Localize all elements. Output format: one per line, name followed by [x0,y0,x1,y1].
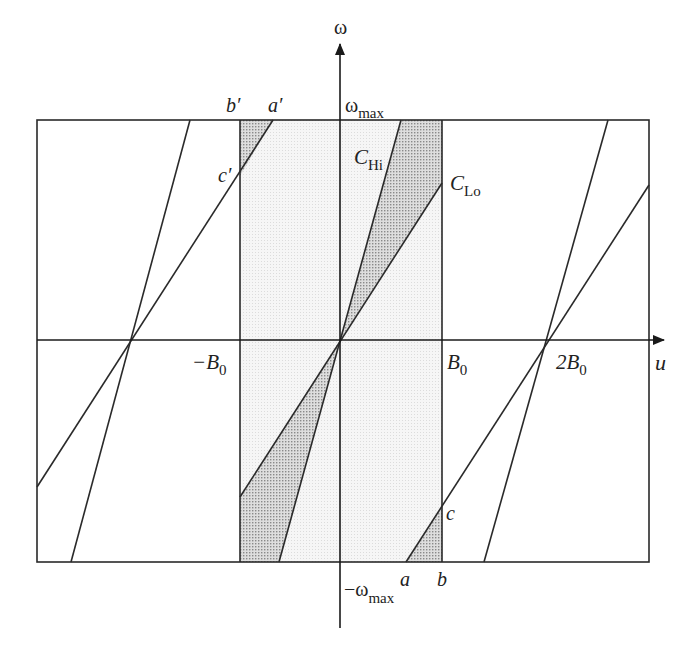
two-b0-tick-label: 2B0 [556,350,587,378]
right-steep-line [484,120,608,562]
b0-tick-label: B0 [447,350,467,378]
left-shallow-line [37,120,273,487]
diagram-canvas: ω u ωmax −ωmax −B0 B0 2B0 CHi CLo b′ a′ … [0,0,682,658]
omega-max-label: ωmax [345,94,384,121]
point-a-prime: a′ [268,94,283,116]
omega-axis-label: ω [334,16,347,38]
neg-b0-tick-label: −B0 [192,350,227,378]
u-axis-label: u [655,350,666,375]
point-a: a [400,568,410,590]
c-lo-label: CLo [450,171,481,199]
point-b: b [437,568,447,590]
point-c-prime: c′ [218,164,232,186]
point-c: c [446,502,455,524]
point-b-prime: b′ [226,94,241,116]
neg-omega-max-label: −ωmax [344,578,395,606]
